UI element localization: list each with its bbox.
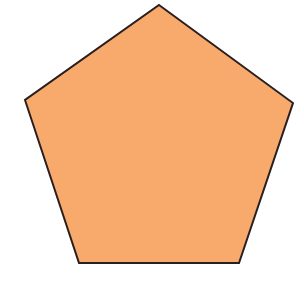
diagram-canvas — [0, 0, 304, 282]
pentagon-shape — [25, 5, 293, 263]
pentagon-figure — [0, 0, 304, 282]
